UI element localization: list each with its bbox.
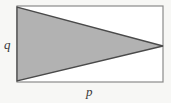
geometry-figure: q p [0,0,171,103]
height-label-q: q [4,38,11,51]
width-label-p: p [86,85,93,98]
